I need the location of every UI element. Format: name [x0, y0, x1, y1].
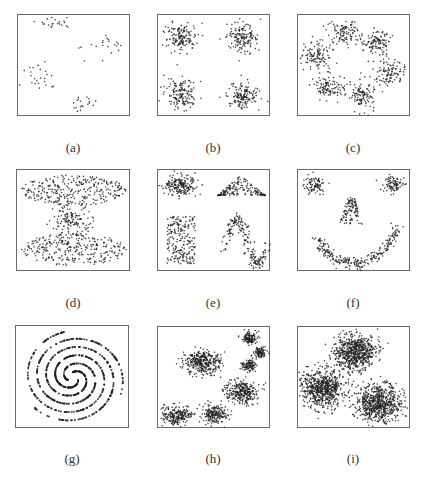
caption-d: (d) [53, 295, 93, 311]
plot-frame-d [16, 169, 130, 271]
caption-f: (f) [333, 295, 373, 311]
scatter-g [16, 326, 130, 429]
scatter-h [158, 327, 271, 429]
scatter-b [158, 15, 271, 117]
scatter-c [298, 15, 411, 117]
caption-h: (h) [193, 451, 233, 467]
scatter-i [298, 327, 411, 429]
plot-frame-a [17, 14, 130, 116]
scatter-e [158, 170, 271, 272]
plot-frame-g [15, 325, 129, 428]
plot-frame-f [297, 169, 410, 271]
caption-b: (b) [193, 140, 233, 156]
plot-frame-i [297, 326, 410, 428]
caption-a: (a) [53, 140, 93, 156]
plot-frame-c [297, 14, 410, 116]
scatter-a [18, 15, 131, 117]
plot-frame-b [157, 14, 270, 116]
scatter-d [17, 170, 131, 272]
caption-g: (g) [52, 451, 92, 467]
plot-frame-h [157, 326, 270, 428]
plot-frame-e [157, 169, 270, 271]
caption-i: (i) [333, 451, 373, 467]
scatter-f [298, 170, 411, 272]
caption-c: (c) [333, 140, 373, 156]
caption-e: (e) [193, 295, 233, 311]
